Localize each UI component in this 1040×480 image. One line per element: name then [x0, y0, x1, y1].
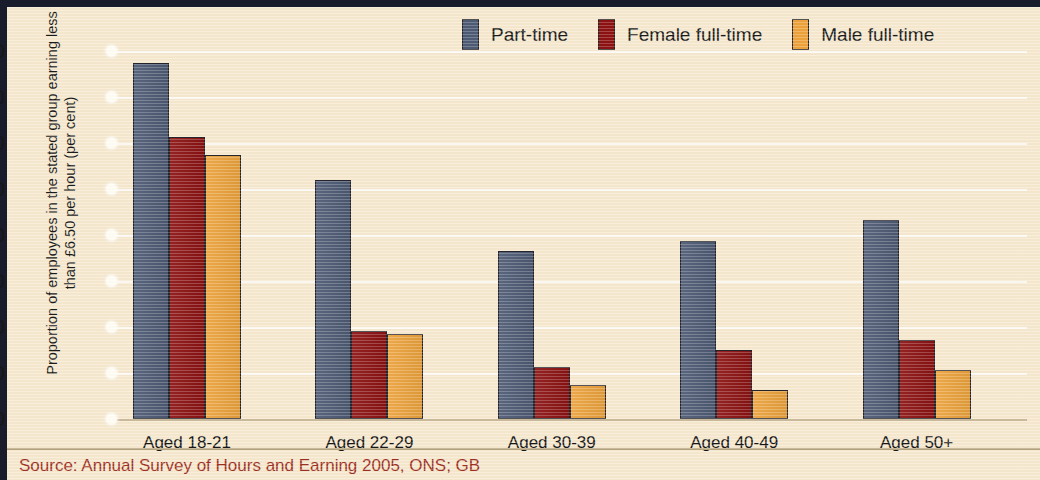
bar[interactable]	[315, 180, 351, 419]
y-tick-label: 40	[0, 224, 5, 247]
legend-label: Female full-time	[627, 24, 762, 46]
legend-swatch-icon	[462, 19, 479, 50]
y-tick-label: 20	[0, 316, 5, 339]
y-tick-label: 30	[0, 270, 5, 293]
bar[interactable]	[863, 220, 899, 419]
y-tick-marker	[106, 230, 117, 241]
chart-legend: Part-timeFemale full-timeMale full-time	[462, 19, 934, 50]
y-tick-label: 10	[0, 362, 5, 385]
chart-figure: Part-timeFemale full-timeMale full-time …	[0, 0, 1040, 480]
y-tick-marker	[106, 322, 117, 333]
x-tick-label: Aged 50+	[880, 433, 953, 453]
bar[interactable]	[570, 385, 606, 420]
bar[interactable]	[205, 155, 241, 419]
source-divider	[7, 448, 1040, 450]
bar[interactable]	[899, 340, 935, 419]
legend-label: Male full-time	[821, 24, 934, 46]
y-tick-label: 60	[0, 132, 5, 155]
x-tick-label: Aged 40-49	[690, 433, 778, 453]
bar-group	[315, 51, 423, 419]
bar[interactable]	[351, 331, 387, 419]
y-tick-marker	[106, 46, 117, 57]
bar[interactable]	[752, 390, 788, 419]
legend-entry[interactable]: Male full-time	[792, 19, 934, 50]
bar-group	[498, 51, 606, 419]
bar[interactable]	[133, 63, 169, 420]
bar[interactable]	[935, 370, 971, 419]
y-tick-marker	[106, 92, 117, 103]
y-tick-marker	[106, 276, 117, 287]
x-tick-label: Aged 30-39	[508, 433, 596, 453]
y-tick-marker	[106, 138, 117, 149]
legend-swatch-icon	[598, 19, 615, 50]
bar[interactable]	[169, 137, 205, 419]
bar[interactable]	[716, 350, 752, 419]
legend-label: Part-time	[491, 24, 568, 46]
gridline	[115, 419, 1027, 421]
y-tick-marker	[106, 184, 117, 195]
y-tick-label: 50	[0, 178, 5, 201]
y-tick-marker	[106, 414, 117, 425]
bar-group	[680, 51, 788, 419]
legend-entry[interactable]: Female full-time	[598, 19, 762, 50]
legend-swatch-icon	[792, 19, 809, 50]
y-tick-marker	[106, 368, 117, 379]
y-axis-title: Proportion of employees in the stated gr…	[43, 3, 79, 383]
source-note: Source: Annual Survey of Hours and Earni…	[19, 456, 480, 476]
x-tick-label: Aged 22-29	[325, 433, 413, 453]
bar[interactable]	[387, 334, 423, 419]
bar[interactable]	[498, 251, 534, 419]
y-tick-label: 80	[0, 40, 5, 63]
bar[interactable]	[534, 367, 570, 419]
plot-area: 01020304050607080Aged 18-21Aged 22-29Age…	[115, 51, 1027, 419]
y-tick-label: 0	[0, 408, 5, 431]
bar-group	[133, 51, 241, 419]
y-tick-label: 70	[0, 86, 5, 109]
x-tick-label: Aged 18-21	[143, 433, 231, 453]
bar-group	[863, 51, 971, 419]
bar[interactable]	[680, 241, 716, 419]
legend-entry[interactable]: Part-time	[462, 19, 568, 50]
